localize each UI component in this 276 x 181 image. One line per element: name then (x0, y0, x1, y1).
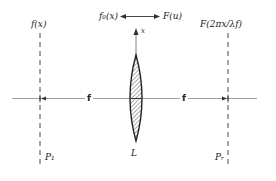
output-plane-label: Pᵣ (215, 153, 224, 162)
focal-length-left-label: f (85, 94, 93, 103)
input-plane-label: P₁ (45, 153, 55, 162)
input-plane-function-label: f(x) (31, 20, 46, 29)
left-focal-arrowhead-icon (41, 97, 46, 101)
x-axis-label: x (141, 28, 145, 35)
lens-label: L (131, 149, 137, 158)
transform-function-label: F(u) (163, 12, 182, 21)
output-plane-function-label: F(2πx/λf) (200, 20, 242, 29)
x-axis-arrowhead-icon (134, 28, 139, 35)
right-focal-arrowhead-icon (222, 97, 227, 101)
focal-length-right-label: f (180, 94, 188, 103)
object-function-label: f₀(x) (99, 12, 118, 21)
